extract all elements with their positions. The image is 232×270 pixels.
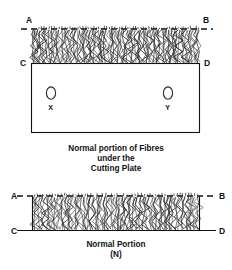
lower-label-c: C	[11, 226, 17, 236]
fibre-tip	[126, 195, 127, 197]
fibre-strand	[38, 196, 40, 230]
hole-x-label: X	[48, 104, 53, 111]
lower-caption-line-1: Normal Portion	[86, 240, 145, 249]
lower-caption: Normal Portion (N)	[86, 240, 145, 259]
fibre-tip	[85, 194, 86, 196]
fibre-tip	[98, 27, 99, 29]
fibre-tip	[76, 195, 77, 196]
fibre-tip	[65, 27, 66, 29]
fibre-tip	[155, 194, 156, 196]
lower-caption-line-2: (N)	[110, 250, 122, 259]
fibre-tip	[180, 28, 181, 29]
fibre-tip	[167, 27, 168, 29]
fibre-cutting-plate-figure: A B C D X Y Normal portion of Fibres und…	[0, 0, 232, 270]
fibre-tip	[144, 194, 145, 196]
fibre-strand	[195, 196, 198, 230]
fibre-strand	[147, 197, 151, 230]
upper-label-a: A	[26, 15, 32, 25]
fibre-tip	[117, 28, 118, 29]
upper-diagram: A B C D X Y	[20, 15, 213, 133]
lower-diagram: A B C D	[11, 191, 225, 236]
fibre-tip	[130, 28, 131, 29]
upper-label-b: B	[203, 15, 209, 25]
fibre-tip	[178, 27, 179, 29]
upper-caption-line-3: Cutting Plate	[91, 164, 142, 173]
lower-label-a: A	[11, 191, 17, 201]
fibre-strand	[129, 197, 131, 230]
upper-caption-line-2: under the	[97, 154, 135, 163]
fibre-tip	[80, 26, 81, 29]
hole-y-label: Y	[165, 104, 170, 111]
cutting-plate-rect	[32, 64, 200, 133]
upper-fibre-band	[30, 26, 201, 63]
hole-y-icon	[163, 87, 172, 99]
fibre-tip	[59, 27, 60, 29]
fibre-strand	[32, 29, 33, 63]
upper-label-d: D	[204, 58, 210, 68]
lower-label-d: D	[219, 226, 225, 236]
fibre-tip	[167, 195, 168, 196]
upper-label-c: C	[20, 58, 26, 68]
fibre-strand	[63, 30, 65, 63]
hole-x-icon	[46, 87, 55, 99]
upper-caption: Normal portion of Fibres under the Cutti…	[68, 144, 164, 173]
lower-fibre-band	[30, 193, 203, 230]
fibre-strand	[75, 197, 76, 230]
fibre-strand	[107, 29, 110, 63]
fibre-tip	[64, 193, 65, 196]
fibre-tip	[88, 27, 89, 29]
fibre-strand	[135, 197, 137, 230]
fibre-tip	[190, 26, 191, 29]
upper-caption-line-1: Normal portion of Fibres	[68, 144, 164, 153]
fibre-tip	[66, 194, 67, 196]
fibre-tip	[39, 27, 40, 29]
fibre-tip	[138, 27, 139, 29]
fibre-tip	[108, 195, 109, 196]
figure-root: A B C D X Y Normal portion of Fibres und…	[0, 0, 232, 270]
fibre-strand	[48, 30, 50, 63]
lower-label-b: B	[219, 191, 225, 201]
fibre-tip	[117, 193, 118, 196]
